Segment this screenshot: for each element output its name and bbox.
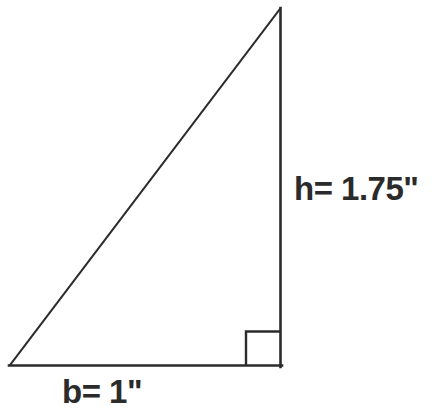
right-angle-marker-icon	[246, 332, 281, 367]
base-dimension-label: b= 1"	[62, 375, 142, 408]
triangle-drawing	[0, 0, 438, 419]
height-dimension-label: h= 1.75"	[294, 172, 418, 205]
hypotenuse-line	[10, 9, 280, 365]
triangle-diagram: h= 1.75" b= 1"	[0, 0, 438, 419]
